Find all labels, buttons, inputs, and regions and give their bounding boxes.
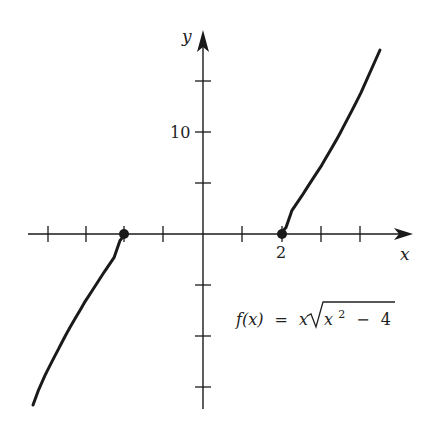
endpoint-pos2 bbox=[277, 229, 287, 239]
function-formula: f(x) = x x 2 − 4 bbox=[235, 302, 395, 329]
formula-x: x bbox=[299, 310, 308, 329]
formula-exponent: 2 bbox=[338, 308, 345, 321]
curve-left-branch bbox=[33, 234, 124, 405]
formula-equals: = bbox=[275, 310, 288, 329]
formula-four: 4 bbox=[381, 310, 391, 329]
formula-lhs: f(x) bbox=[235, 310, 263, 329]
svg-text:f(x) = x: f(x) = x bbox=[235, 310, 308, 329]
function-graph: y x 2 10 f(x) = x x 2 − 4 bbox=[0, 0, 435, 435]
x-axis-label: x bbox=[400, 244, 410, 264]
svg-text:x 2 − 4: x 2 − 4 bbox=[324, 303, 391, 329]
formula-radicand-x: x bbox=[324, 310, 333, 329]
formula-minus: − bbox=[356, 310, 369, 329]
y-tick-label-10: 10 bbox=[170, 123, 190, 142]
x-axis bbox=[28, 226, 413, 242]
x-tick-label-2: 2 bbox=[276, 243, 286, 262]
curve-right-branch bbox=[282, 50, 380, 234]
y-axis bbox=[195, 30, 211, 409]
y-axis-label: y bbox=[181, 26, 192, 46]
endpoint-neg2 bbox=[119, 229, 129, 239]
